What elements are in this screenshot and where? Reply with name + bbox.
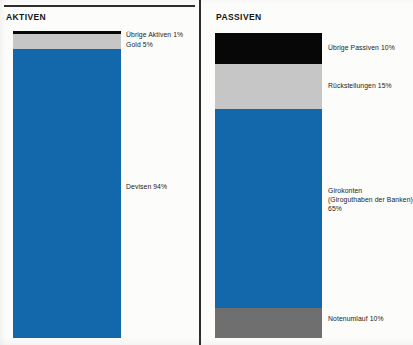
bar-segment-girokonten	[215, 109, 322, 307]
stacked-bar-aktiven	[13, 31, 121, 338]
bar-segment-notenumlauf	[215, 308, 322, 339]
panel-aktiven: AKTIVEN Übrige Aktiven 1% Gold 5% Devise…	[0, 0, 199, 345]
legend-label-uebrige-aktiven: Übrige Aktiven 1%	[126, 30, 198, 39]
bar-segment-gold	[13, 34, 121, 49]
bar-segment-uebrige-passiven	[215, 33, 322, 64]
legend-label-gold: Gold 5%	[126, 40, 198, 49]
legend-label-rueckstellungen: Rückstellungen 15%	[328, 81, 412, 90]
legend-label-devisen: Devisen 94%	[126, 182, 198, 191]
stacked-bar-passiven	[215, 33, 322, 338]
bar-segment-rueckstellungen	[215, 64, 322, 110]
panel-title-aktiven: AKTIVEN	[6, 12, 46, 22]
panel-title-passiven: PASSIVEN	[216, 12, 262, 22]
legend-label-notenumlauf: Notenumlauf 10%	[328, 314, 412, 323]
header-rule	[4, 5, 195, 7]
legend-label-uebrige-passiven: Übrige Passiven 10%	[328, 43, 412, 52]
legend-label-girokonten: Girokonten (Giroguthaben der Banken) 65%	[328, 186, 413, 214]
bar-segment-devisen	[13, 49, 121, 338]
chart-page: AKTIVEN Übrige Aktiven 1% Gold 5% Devise…	[0, 0, 413, 345]
